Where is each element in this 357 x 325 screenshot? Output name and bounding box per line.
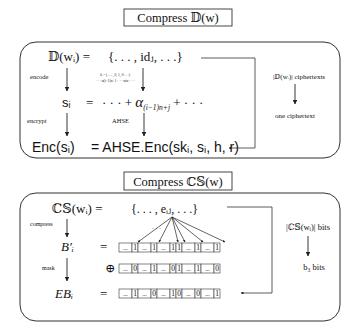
b-prime-label: B′ᵢ xyxy=(61,239,74,254)
eb-label: EBᵢ xyxy=(54,286,73,301)
bit-value: 0 xyxy=(133,264,137,273)
bit-value: 1 xyxy=(152,243,156,252)
bit-value: 0 xyxy=(196,289,200,298)
bit-value: 0 xyxy=(177,289,181,298)
bit-value: ... xyxy=(161,291,166,297)
bit-value: 1 xyxy=(133,243,137,252)
bit-value: ... xyxy=(205,266,210,272)
bit-value: ... xyxy=(205,245,210,251)
bit-value: 0 xyxy=(152,289,156,298)
alpha-range: · · · α(i−1)n+1 · · · αin · · · xyxy=(95,79,134,83)
top-side-to: one ciphertext xyxy=(275,112,315,120)
mask-bit-array: ...0...1...01...1...0 xyxy=(119,264,220,273)
bit-value: 0 xyxy=(215,264,219,273)
bit-value: ... xyxy=(161,266,166,272)
xor-symbol: ⊕ xyxy=(105,261,115,275)
top-bracket-connector xyxy=(201,58,255,148)
ahse-label: AHSE xyxy=(112,117,129,124)
fan-dots: · · · xyxy=(152,226,161,232)
bottom-title: Compress ℂ𝕊(w) xyxy=(133,175,222,189)
bit-value: ... xyxy=(186,291,191,297)
b-prime-eq: = xyxy=(100,239,107,254)
bit-value: 1 xyxy=(171,243,175,252)
bit-value: 1 xyxy=(177,243,181,252)
bit-value: ... xyxy=(123,266,128,272)
s-expression: · · · + α(i−1)n+j + · · · xyxy=(102,94,203,112)
bit-value: 1 xyxy=(133,289,137,298)
s-eq: = xyxy=(86,95,93,110)
bit-value: ... xyxy=(123,291,128,297)
eb-eq: = xyxy=(100,286,107,301)
encrypt-label: encrypt xyxy=(27,117,47,124)
bottom-bracket-connector xyxy=(227,207,272,293)
id-set: {. . . , idⱼ, . . .} xyxy=(108,49,183,64)
top-title: Compress 𝔻(w) xyxy=(137,11,218,25)
top-section: Compress 𝔻(w) 𝔻(wᵢ) = {. . . , idⱼ, . . … xyxy=(20,9,340,158)
bit-value: 1 xyxy=(171,289,175,298)
bit-value: 1 xyxy=(215,289,219,298)
bit-value: 1 xyxy=(152,264,156,273)
bit-value: 1 xyxy=(215,243,219,252)
bit-value: ... xyxy=(123,245,128,251)
bit-value: ... xyxy=(186,245,191,251)
bit-value: 1 xyxy=(177,264,181,273)
bit-value: 0 xyxy=(171,264,175,273)
bottom-side-from: |ℂ𝕊(wᵢ)| bits xyxy=(286,222,330,232)
bit-value: 1 xyxy=(196,243,200,252)
bit-value: ... xyxy=(205,291,210,297)
bit-value: ... xyxy=(142,291,147,297)
d-wi-label: 𝔻(wᵢ) = xyxy=(48,49,90,64)
compress-label: compress xyxy=(30,221,53,227)
e-ij-set: {. . . , eᵢⱼ, . . .} xyxy=(131,202,198,216)
b-prime-bit-array: ...1...1...11...1...1 xyxy=(119,243,220,252)
top-side-from: |𝔻(wᵢ)| ciphertexts xyxy=(273,73,325,81)
compression-diagram: Compress 𝔻(w) 𝔻(wᵢ) = {. . . , idⱼ, . . … xyxy=(0,0,357,325)
bit-value: ... xyxy=(142,245,147,251)
bit-value: ... xyxy=(142,266,147,272)
eb-bit-array: ...1...0...10...0...1 xyxy=(119,289,220,298)
ahse-enc-expression: = AHSE.Enc(skᵢ, sᵢ, h, r) xyxy=(91,139,239,155)
bit-value: 1 xyxy=(196,264,200,273)
bottom-section: Compress ℂ𝕊(w) ℂ𝕊(wᵢ) = {. . . , eᵢⱼ, . … xyxy=(20,172,340,321)
s-i-label: sᵢ xyxy=(62,95,71,110)
mask-label: mask xyxy=(42,265,55,271)
bit-value: ... xyxy=(161,245,166,251)
enc-si-label: Enc(sᵢ) xyxy=(32,139,75,155)
cs-wi-label: ℂ𝕊(wᵢ) = xyxy=(52,201,103,216)
encode-label: encode xyxy=(30,73,49,80)
bottom-side-to: b₃ bits xyxy=(303,262,325,272)
bit-value: ... xyxy=(186,266,191,272)
delta-vector: δᵢ = (. . . , 0, 1, 0 . . .) xyxy=(100,73,131,78)
